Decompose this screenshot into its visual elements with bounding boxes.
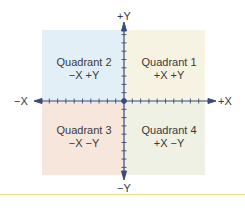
quadrant-2-label: Quadrant 2 −X +Y	[44, 56, 124, 82]
quadrant-4-signs: +X −Y	[129, 137, 209, 150]
y-positive-arrow-icon	[122, 22, 127, 31]
y-negative-arrow-icon	[122, 171, 127, 180]
quadrant-3-signs: −X −Y	[44, 137, 124, 150]
bottom-divider	[0, 194, 245, 195]
coordinate-axes	[0, 0, 245, 209]
x-negative-label: −X	[14, 95, 28, 107]
origin-point	[122, 99, 127, 104]
quadrant-2-title: Quadrant 2	[44, 56, 124, 69]
y-positive-label: +Y	[117, 10, 131, 22]
quadrant-1-label: Quadrant 1 +X +Y	[129, 56, 209, 82]
quadrant-2-signs: −X +Y	[44, 69, 124, 82]
x-negative-arrow-icon	[34, 99, 42, 104]
x-positive-arrow-icon	[208, 99, 216, 104]
quadrant-1-signs: +X +Y	[129, 69, 209, 82]
x-positive-label: +X	[218, 95, 232, 107]
quadrant-4-label: Quadrant 4 +X −Y	[129, 124, 209, 150]
quadrant-3-label: Quadrant 3 −X −Y	[44, 124, 124, 150]
quadrant-4-title: Quadrant 4	[129, 124, 209, 137]
quadrant-1-title: Quadrant 1	[129, 56, 209, 69]
y-negative-label: −Y	[117, 182, 131, 194]
quadrant-3-title: Quadrant 3	[44, 124, 124, 137]
